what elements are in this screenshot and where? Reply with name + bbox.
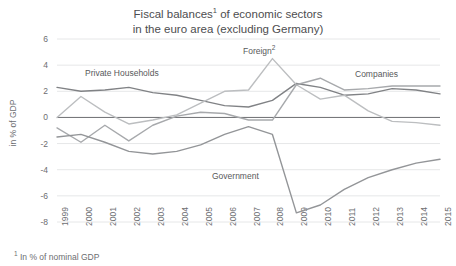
series-label-private-households: Private Households (85, 68, 159, 78)
series-label-foreign: Foreign2 (243, 44, 275, 56)
footnote-text: In % of nominal GDP (18, 252, 100, 262)
chart-figure: Fiscal balances1 of economic sectorsin t… (0, 0, 456, 266)
series-label-government: Government (212, 171, 259, 181)
series-line-companies (57, 78, 440, 142)
series-label-foreign-marker: 2 (272, 44, 276, 51)
chart-footnote: 1 In % of nominal GDP (14, 250, 99, 262)
chart-plot-area (0, 0, 456, 266)
series-label-companies: Companies (355, 69, 398, 79)
series-label-foreign-text: Foreign (243, 46, 272, 56)
